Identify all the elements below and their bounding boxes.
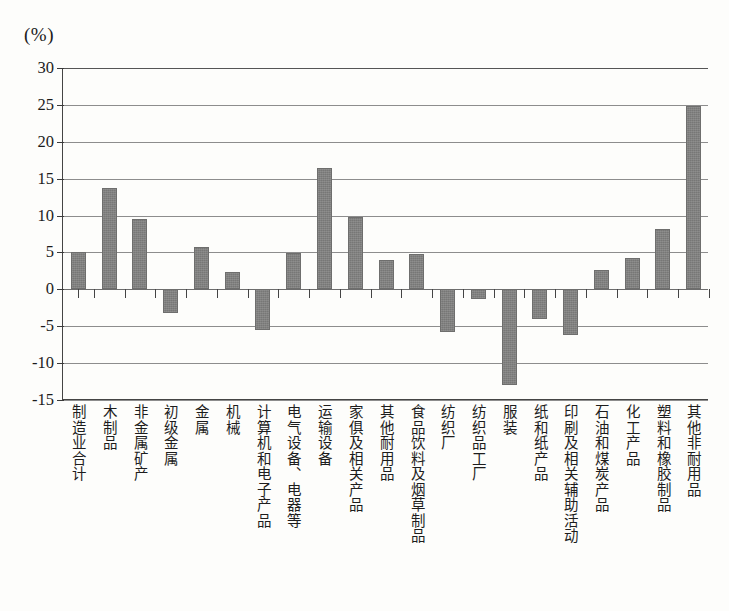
x-axis-label: 电气设备、电器等 bbox=[285, 404, 300, 528]
x-axis-label: 食品饮料及烟草制品 bbox=[409, 404, 424, 544]
x-tick bbox=[217, 289, 218, 298]
x-tick bbox=[186, 289, 187, 298]
bar-series bbox=[63, 68, 708, 399]
x-tick bbox=[709, 289, 710, 298]
x-axis-labels: 制造业合计木制品非金属矿产初级金属金属机械计算机和电子产品电气设备、电器等运输设… bbox=[62, 404, 708, 609]
bar bbox=[532, 289, 547, 319]
x-axis-label: 家俱及相关产品 bbox=[347, 404, 362, 513]
bar-chart: (%) 302520151050-5-10-15 制造业合计木制品非金属矿产初级… bbox=[0, 0, 729, 611]
x-axis-label: 制造业合计 bbox=[70, 404, 85, 482]
x-tick bbox=[617, 289, 618, 298]
bar bbox=[286, 253, 301, 289]
x-tick bbox=[78, 289, 79, 298]
y-axis-label: 0 bbox=[46, 279, 54, 299]
x-tick bbox=[94, 289, 95, 298]
bar bbox=[502, 289, 517, 385]
x-axis-label: 塑料和橡胶制品 bbox=[655, 404, 670, 513]
x-tick bbox=[647, 289, 648, 298]
x-tick bbox=[524, 289, 525, 298]
x-tick bbox=[340, 289, 341, 298]
x-axis-label: 纸和纸产品 bbox=[532, 404, 547, 482]
x-tick bbox=[401, 289, 402, 298]
x-axis-label: 纺织厂 bbox=[439, 404, 454, 451]
x-axis-label: 计算机和电子产品 bbox=[255, 404, 270, 528]
bar bbox=[440, 289, 455, 332]
bar bbox=[102, 188, 117, 290]
bar bbox=[563, 289, 578, 335]
y-axis-label: 25 bbox=[38, 95, 55, 115]
x-tick bbox=[586, 289, 587, 298]
bar bbox=[655, 229, 670, 289]
bar bbox=[225, 272, 240, 290]
bar bbox=[471, 289, 486, 299]
x-axis-label: 石油和煤炭产品 bbox=[593, 404, 608, 513]
x-tick bbox=[248, 289, 249, 298]
x-axis-label: 化工产品 bbox=[624, 404, 639, 466]
bar bbox=[348, 217, 363, 289]
x-tick bbox=[432, 289, 433, 298]
x-tick bbox=[371, 289, 372, 298]
y-axis-label: 5 bbox=[46, 242, 54, 262]
x-axis-label: 其他非耐用品 bbox=[685, 404, 700, 497]
x-axis-label: 运输设备 bbox=[316, 404, 331, 466]
bar bbox=[132, 219, 147, 289]
x-axis-label: 其他耐用品 bbox=[378, 404, 393, 482]
x-axis-label: 服装 bbox=[501, 404, 516, 435]
x-axis-label: 初级金属 bbox=[162, 404, 177, 466]
x-tick bbox=[678, 289, 679, 298]
bar bbox=[71, 252, 86, 289]
x-axis-label: 印刷及相关辅助活动 bbox=[562, 404, 577, 544]
y-axis-label: 15 bbox=[38, 169, 55, 189]
y-axis-label: -15 bbox=[32, 390, 54, 410]
x-tick bbox=[155, 289, 156, 298]
bar bbox=[255, 289, 270, 330]
x-tick bbox=[278, 289, 279, 298]
bar bbox=[194, 247, 209, 290]
bar bbox=[163, 289, 178, 313]
y-axis-label: 20 bbox=[38, 132, 55, 152]
bar bbox=[625, 258, 640, 289]
y-axis-label: -5 bbox=[40, 316, 54, 336]
x-axis-label: 木制品 bbox=[101, 404, 116, 451]
x-axis-label: 纺织品工厂 bbox=[470, 404, 485, 482]
bar bbox=[594, 270, 609, 289]
gridline--15 bbox=[63, 400, 708, 401]
y-axis-unit-label: (%) bbox=[24, 24, 54, 46]
bar bbox=[317, 168, 332, 289]
bar bbox=[686, 106, 701, 289]
y-axis-label: -10 bbox=[32, 353, 54, 373]
x-axis-label: 机械 bbox=[224, 404, 239, 435]
x-tick bbox=[309, 289, 310, 298]
x-tick bbox=[555, 289, 556, 298]
x-axis-label: 非金属矿产 bbox=[132, 404, 147, 482]
x-tick bbox=[494, 289, 495, 298]
y-axis-label: 10 bbox=[38, 206, 55, 226]
y-tick--15 bbox=[57, 400, 64, 401]
bar bbox=[379, 260, 394, 290]
x-tick bbox=[463, 289, 464, 298]
bar bbox=[409, 254, 424, 289]
x-tick bbox=[125, 289, 126, 298]
y-axis-label: 30 bbox=[38, 58, 55, 78]
plot-area: 302520151050-5-10-15 bbox=[62, 68, 708, 400]
x-axis-label: 金属 bbox=[193, 404, 208, 435]
